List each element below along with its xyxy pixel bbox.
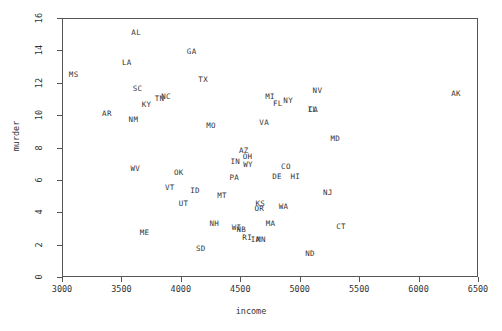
y-axis-label: murder (11, 106, 21, 166)
y-axis-tick-label: 14 (34, 39, 44, 61)
y-axis-tick-label: 16 (34, 7, 44, 29)
y-axis-tick-label: 2 (34, 234, 44, 256)
x-axis-tick (419, 277, 420, 282)
x-axis-tick (121, 277, 122, 282)
x-axis-tick (359, 277, 360, 282)
x-axis-tick (478, 277, 479, 282)
x-axis-label: income (0, 306, 502, 316)
x-axis-tick (300, 277, 301, 282)
scatter-plot-figure: ALAKAZARCACOCTDEFLGAHIIDILINIAKSKYLAMEMD… (0, 0, 502, 331)
y-axis-tick-label: 8 (34, 137, 44, 159)
y-axis-tick-label: 4 (34, 201, 44, 223)
y-axis-tick (57, 212, 62, 213)
x-axis-tick-label: 5000 (289, 284, 309, 294)
y-axis-tick (57, 277, 62, 278)
x-axis-tick-label: 3000 (52, 284, 72, 294)
x-axis-tick-label: 4500 (230, 284, 250, 294)
x-axis-tick-label: 3500 (111, 284, 131, 294)
plot-frame (62, 18, 478, 277)
y-axis-tick-label: 0 (34, 266, 44, 288)
y-axis-tick (57, 115, 62, 116)
x-axis-tick-label: 5500 (349, 284, 369, 294)
y-axis-tick-label: 10 (34, 104, 44, 126)
y-axis-tick-label: 12 (34, 72, 44, 94)
x-axis-tick (62, 277, 63, 282)
y-axis-tick-label: 6 (34, 169, 44, 191)
y-axis-tick (57, 50, 62, 51)
x-axis-tick-label: 6500 (468, 284, 488, 294)
y-axis-tick (57, 148, 62, 149)
x-axis-tick (240, 277, 241, 282)
x-axis-tick-label: 4000 (171, 284, 191, 294)
x-axis-tick (181, 277, 182, 282)
y-axis-tick (57, 83, 62, 84)
y-axis-tick (57, 245, 62, 246)
y-axis-tick (57, 180, 62, 181)
x-axis-tick-label: 6000 (408, 284, 428, 294)
y-axis-tick (57, 18, 62, 19)
